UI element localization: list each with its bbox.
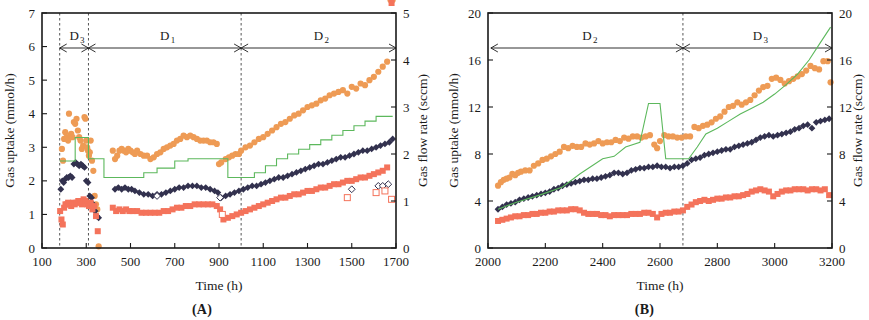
data-point-circle [687, 133, 693, 139]
data-point-circle [344, 90, 350, 96]
data-point-circle [371, 74, 377, 80]
ytick-left-label-4: 16 [468, 53, 482, 68]
region-label-0: D [582, 28, 591, 43]
panel-a-svg: D3D1D20123456701234510030050070090011001… [0, 0, 440, 300]
region-label-0: D [69, 28, 78, 43]
data-point-circle [825, 58, 831, 64]
series-0 [495, 58, 834, 189]
series-3 [498, 27, 831, 209]
ytick-left-label-2: 8 [475, 147, 482, 162]
data-point-circle [752, 92, 758, 98]
data-point-square [373, 190, 379, 196]
data-point-square [384, 164, 390, 170]
ytick-left-label-4: 4 [29, 106, 36, 121]
region-label-sub-0: 2 [593, 35, 598, 45]
panel-a-caption: (A) [0, 302, 422, 318]
xtick-label-0: 2000 [475, 254, 501, 269]
data-point-circle [87, 149, 93, 155]
data-point-circle [73, 116, 79, 122]
data-point-circle [747, 97, 753, 103]
ytick-right-label-5: 20 [839, 6, 852, 21]
panel-b-caption: (B) [430, 302, 859, 318]
data-point-diamond [348, 186, 355, 193]
ytick-right-label-2: 2 [403, 147, 410, 162]
xtick-label-3: 700 [165, 254, 185, 269]
chart-panel-a: D3D1D20123456701234510030050070090011001… [0, 0, 440, 320]
data-point-circle [380, 64, 386, 70]
ytick-right-label-5: 5 [403, 6, 410, 21]
flow-rate-line [60, 116, 393, 177]
xtick-label-5: 3000 [762, 254, 788, 269]
xtick-label-6: 1300 [295, 254, 321, 269]
ytick-left-label-2: 2 [29, 173, 36, 188]
y-axis-title-left: Gas uptake (mmol/h) [2, 73, 17, 188]
x-axis-title: Time (h) [195, 278, 242, 293]
y-axis-title-right: Gas flow rate (sccm) [415, 74, 430, 187]
region-label-sub-1: 3 [763, 35, 768, 45]
data-point-circle [82, 116, 88, 122]
data-point-circle [647, 132, 653, 138]
xtick-label-8: 1700 [383, 254, 409, 269]
data-point-circle [214, 141, 220, 147]
data-point-diamond [57, 186, 64, 193]
chart-panel-b: D2D3048121620048121620200022002400260028… [440, 0, 869, 320]
series-0 [59, 0, 396, 249]
region-label-sub-1: 1 [171, 35, 176, 45]
data-point-circle [764, 83, 770, 89]
data-point-square [93, 213, 99, 219]
data-point-square [382, 188, 388, 194]
region-label-2: D [314, 28, 323, 43]
series-5 [60, 116, 393, 177]
xtick-label-0: 100 [32, 254, 52, 269]
data-point-circle [66, 111, 72, 117]
region-label-1: D [160, 28, 169, 43]
ytick-left-label-5: 5 [29, 73, 36, 88]
region-label-sub-2: 2 [325, 35, 330, 45]
ytick-right-label-3: 3 [403, 100, 410, 115]
ytick-left-label-1: 4 [475, 194, 482, 209]
xtick-label-4: 900 [209, 254, 229, 269]
data-point-circle [75, 127, 81, 133]
panel-b-svg: D2D3048121620048121620200022002400260028… [440, 0, 869, 300]
ytick-left-label-3: 3 [29, 140, 36, 155]
ytick-left-label-1: 1 [29, 207, 36, 222]
xtick-label-1: 300 [77, 254, 97, 269]
figure-container: D3D1D20123456701234510030050070090011001… [0, 0, 869, 320]
data-point-square [219, 211, 225, 217]
ytick-right-label-4: 16 [839, 53, 853, 68]
data-point-square [95, 228, 101, 234]
xtick-label-2: 500 [121, 254, 141, 269]
y-axis-title-right: Gas flow rate (sccm) [850, 74, 865, 187]
ytick-right-label-2: 8 [839, 147, 846, 162]
data-point-square [344, 195, 350, 201]
x-axis-title: Time (h) [636, 278, 683, 293]
data-point-circle [816, 66, 822, 72]
data-point-circle [110, 148, 116, 154]
ytick-left-label-3: 12 [468, 100, 481, 115]
data-point-circle [803, 67, 809, 73]
ytick-right-label-1: 1 [403, 194, 410, 209]
xtick-label-1: 2200 [532, 254, 558, 269]
data-point-circle [90, 168, 96, 174]
data-point-circle [526, 167, 532, 173]
ytick-left-label-6: 6 [29, 39, 36, 54]
data-point-circle [557, 149, 563, 155]
xtick-label-7: 1500 [339, 254, 365, 269]
xtick-label-3: 2600 [647, 254, 673, 269]
data-point-square [822, 186, 828, 192]
ytick-right-label-4: 4 [403, 53, 410, 68]
data-point-square [91, 203, 97, 209]
data-point-circle [375, 69, 381, 75]
flow-rate-line [498, 27, 831, 209]
data-point-circle [721, 109, 727, 115]
data-point-circle [59, 146, 65, 152]
data-point-circle [362, 82, 368, 88]
data-point-square [60, 222, 66, 228]
region-label-sub-0: 3 [80, 35, 85, 45]
ytick-right-label-1: 4 [839, 194, 846, 209]
xtick-label-5: 1100 [250, 254, 276, 269]
series-1 [495, 115, 833, 212]
xtick-label-2: 2400 [590, 254, 616, 269]
data-point-circle [717, 113, 723, 119]
data-point-circle [384, 59, 390, 65]
